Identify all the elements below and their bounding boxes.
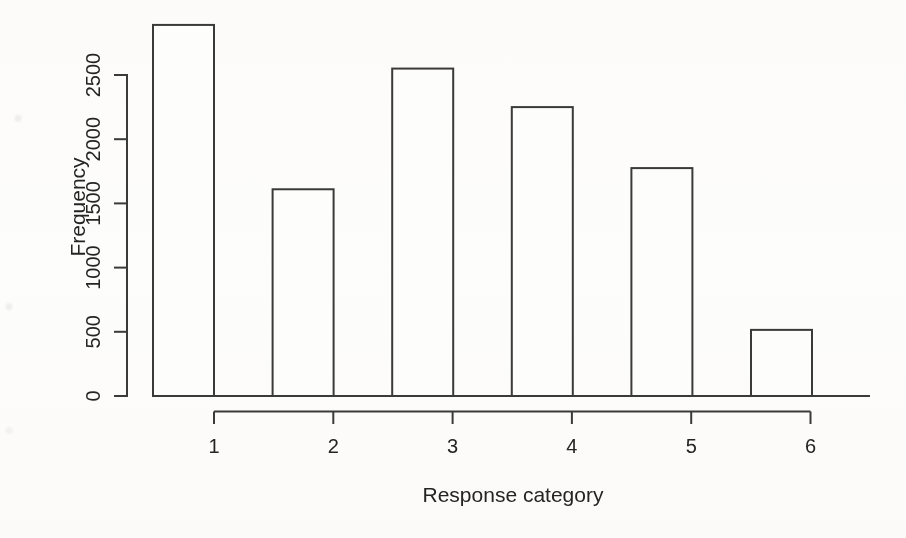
barplot-canvas: 05001000150020002500123456 Response cate…: [0, 0, 906, 538]
x-tick-label: 5: [686, 435, 697, 457]
x-axis-title: Response category: [423, 483, 604, 506]
x-tick-label: 4: [566, 435, 577, 457]
bar-category-1: [153, 25, 214, 396]
y-tick-label: 0: [82, 390, 104, 401]
x-tick-label: 2: [328, 435, 339, 457]
bar-category-6: [751, 330, 812, 396]
x-tick-label: 1: [208, 435, 219, 457]
bar-category-5: [631, 168, 692, 396]
barplot-figure: 05001000150020002500123456 Response cate…: [0, 0, 906, 538]
x-tick-label: 6: [805, 435, 816, 457]
plot-area: 05001000150020002500123456: [82, 25, 870, 457]
bar-category-4: [512, 107, 573, 396]
y-tick-label: 2000: [82, 117, 104, 162]
y-tick-label: 500: [82, 315, 104, 348]
bar-category-2: [273, 189, 334, 396]
y-axis-title: Frequency: [66, 157, 89, 257]
y-tick-label: 2500: [82, 53, 104, 98]
x-tick-label: 3: [447, 435, 458, 457]
bar-category-3: [392, 69, 453, 396]
